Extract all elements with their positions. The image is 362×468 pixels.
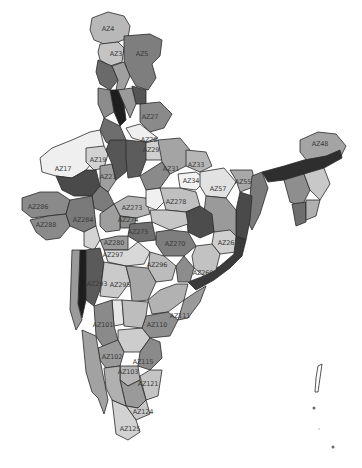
region-label-az4: AZ4 bbox=[102, 25, 114, 33]
region-label-az280: AZ280 bbox=[104, 239, 124, 247]
island-dot bbox=[313, 407, 316, 410]
region-label-az115: AZ115 bbox=[133, 358, 153, 366]
region-label-az275: AZ275 bbox=[128, 228, 148, 236]
india-choropleth-map bbox=[0, 0, 362, 468]
region-label-az297: AZ297 bbox=[103, 251, 123, 259]
region-label-az295: AZ295 bbox=[110, 281, 130, 289]
region-label-az121: AZ121 bbox=[138, 380, 158, 388]
region-ne-south-4[interactable] bbox=[306, 200, 320, 220]
region-label-az124: AZ124 bbox=[133, 408, 153, 416]
region-label-az273: AZ273 bbox=[122, 204, 142, 212]
region-label-az274: AZ274 bbox=[118, 216, 138, 224]
andaman-islands bbox=[315, 364, 322, 392]
region-label-az284: AZ284 bbox=[73, 216, 93, 224]
region-label-az19: AZ19 bbox=[90, 156, 106, 164]
region-label-az111: AZ111 bbox=[170, 312, 190, 320]
region-odisha-mid[interactable] bbox=[176, 256, 194, 282]
region-label-az27: AZ27 bbox=[142, 113, 158, 121]
region-ne-south-3[interactable] bbox=[292, 202, 306, 226]
region-label-az288: AZ288 bbox=[36, 221, 56, 229]
region-label-az278: AZ278 bbox=[166, 198, 186, 206]
region-label-az270: AZ270 bbox=[165, 240, 185, 248]
region-label-az125: AZ125 bbox=[120, 425, 140, 433]
region-label-az31: AZ31 bbox=[163, 165, 179, 173]
region-label-az296: AZ296 bbox=[147, 261, 167, 269]
region-label-az55: AZ55 bbox=[235, 178, 251, 186]
region-az293[interactable] bbox=[86, 248, 104, 306]
island-dot bbox=[332, 446, 335, 449]
region-label-az28: AZ28 bbox=[141, 136, 157, 144]
island-dot bbox=[318, 428, 320, 430]
region-label-az102: AZ102 bbox=[102, 353, 122, 361]
region-bengal-dark[interactable] bbox=[236, 192, 252, 240]
region-label-az286: AZ286 bbox=[28, 203, 48, 211]
region-label-az3: AZ3 bbox=[110, 50, 122, 58]
region-gujarat-az284[interactable] bbox=[66, 196, 96, 232]
region-label-az17: AZ17 bbox=[55, 165, 71, 173]
region-label-az29: AZ29 bbox=[143, 146, 159, 154]
region-label-az21: AZ21 bbox=[100, 173, 116, 181]
region-label-az293: AZ293 bbox=[87, 280, 107, 288]
region-label-az261: AZ261 bbox=[218, 239, 238, 247]
region-label-az33: AZ33 bbox=[188, 161, 204, 169]
region-label-az103: AZ103 bbox=[118, 368, 138, 376]
region-label-az34: AZ34 bbox=[183, 177, 199, 185]
region-label-az269: AZ269 bbox=[193, 269, 213, 277]
region-label-az101: AZ101 bbox=[93, 321, 113, 329]
region-mp-mid[interactable] bbox=[150, 210, 188, 230]
region-label-az5: AZ5 bbox=[136, 50, 148, 58]
region-label-az57: AZ57 bbox=[210, 185, 226, 193]
region-bihar-az57[interactable] bbox=[200, 168, 236, 198]
region-ne-south-2[interactable] bbox=[304, 168, 330, 200]
region-label-az48: AZ48 bbox=[312, 140, 328, 148]
region-az5[interactable] bbox=[124, 34, 162, 90]
region-label-az110: AZ110 bbox=[147, 321, 167, 329]
